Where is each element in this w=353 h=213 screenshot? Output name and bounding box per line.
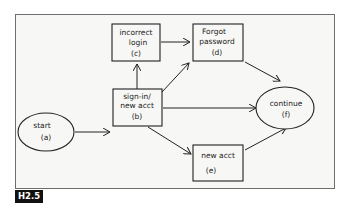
incorrect-id: (c) [131,49,141,58]
newacct-id: (e) [206,166,217,175]
continue-label: continue [270,99,303,108]
forgot-id: (d) [212,48,223,57]
flow-diagram: start (a) sign-in/ new acct (b) incorrec… [0,0,353,213]
edge-e-f [245,128,286,150]
node-start [18,113,74,151]
incorrect-label-1: incorrect [119,28,152,37]
start-label: start [33,121,51,130]
forgot-label-2: password [199,37,235,46]
forgot-label-1: Forgot [202,27,226,36]
continue-id: (f) [282,110,291,119]
edge-b-d [162,63,189,92]
edge-d-f [245,62,280,81]
newacct-label: new acct [201,151,235,160]
node-continue [256,87,314,129]
incorrect-label-2: login [129,38,148,47]
signin-id: (b) [132,112,143,121]
start-id: (a) [41,133,52,142]
figure-label: H2.5 [15,190,43,203]
signin-label-1: sign-in/ [123,92,151,101]
signin-label-2: new acct [120,101,154,110]
edge-b-e [148,127,191,154]
